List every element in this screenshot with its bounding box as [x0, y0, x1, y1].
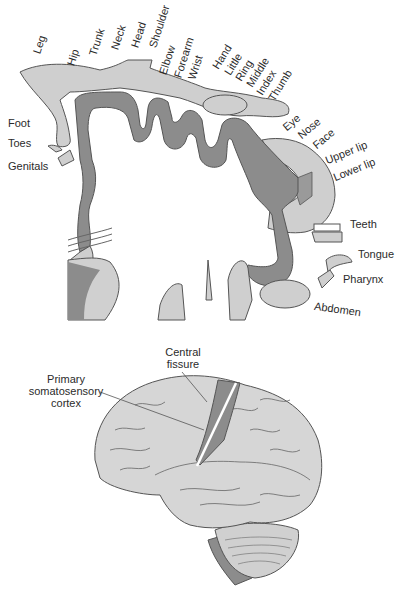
label-cortex-line2: somatosensory — [18, 385, 114, 397]
label-somatosensory-cortex: Primary somatosensory cortex — [18, 373, 114, 409]
label-cortex-line1: Primary — [18, 373, 114, 385]
homunculus-diagram — [0, 0, 400, 330]
label-genitals: Genitals — [8, 161, 48, 172]
cerebellum — [215, 523, 299, 578]
somatosensory-cortex — [196, 380, 240, 465]
central-fissure-line — [197, 383, 236, 466]
cerebrum — [95, 376, 322, 528]
label-central-fissure-line1: Central — [149, 346, 217, 358]
label-foot: Foot — [8, 118, 30, 129]
brainstem — [208, 535, 252, 585]
label-toes: Toes — [8, 138, 31, 149]
cortex-band — [75, 92, 298, 286]
label-central-fissure: Central fissure — [149, 346, 217, 370]
label-central-fissure-line2: fissure — [149, 358, 217, 370]
label-teeth: Teeth — [350, 219, 377, 230]
label-tongue: Tongue — [358, 249, 394, 260]
label-pharynx: Pharynx — [343, 274, 383, 285]
label-cortex-line3: cortex — [18, 397, 114, 409]
